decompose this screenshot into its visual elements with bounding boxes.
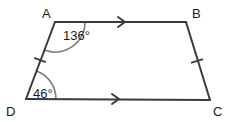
vertex-label-d: D: [6, 104, 15, 119]
trapezoid-diagram: A B C D 136° 46°: [0, 0, 234, 122]
vertex-label-a: A: [42, 6, 51, 21]
geometry-figure-canvas: A B C D 136° 46°: [0, 0, 234, 122]
angle-measure-label-d: 46°: [33, 86, 53, 101]
vertex-label-b: B: [192, 6, 201, 21]
angle-measure-label-a: 136°: [63, 28, 90, 43]
vertex-label-c: C: [213, 104, 222, 119]
